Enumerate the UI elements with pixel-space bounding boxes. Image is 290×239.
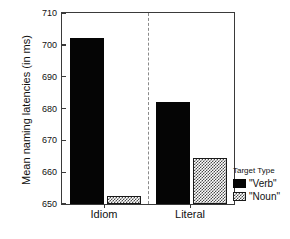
y-tick-label: 680 <box>28 103 62 115</box>
y-tick-label: 670 <box>28 134 62 146</box>
legend-entry: "Verb" <box>233 178 280 189</box>
y-tick-value: 700 <box>42 39 62 51</box>
y-tick-value: 710 <box>42 7 62 19</box>
y-tick-mark <box>62 76 66 77</box>
bar-idiom-series0 <box>70 38 104 204</box>
y-tick-mark <box>62 172 66 173</box>
y-tick-mark <box>62 203 66 204</box>
y-tick-value: 660 <box>42 166 62 178</box>
y-tick-label: 690 <box>28 71 62 83</box>
y-tick-value: 670 <box>42 134 62 146</box>
legend-title: Target Type <box>233 166 280 175</box>
bar-literal-series1 <box>193 158 227 204</box>
y-tick-value: 690 <box>42 71 62 83</box>
bar-chart-figure: Mean naming latencies (in ms) 6506606706… <box>0 0 290 239</box>
y-tick-value: 680 <box>42 103 62 115</box>
bar-idiom-series1 <box>107 196 141 204</box>
y-tick-label: 650 <box>28 198 62 210</box>
legend: Target Type "Verb""Noun" <box>233 166 280 204</box>
y-tick-label: 710 <box>28 7 62 19</box>
group-divider-line <box>148 13 149 204</box>
y-tick-label: 660 <box>28 166 62 178</box>
y-tick-mark <box>62 140 66 141</box>
y-tick-value: 650 <box>42 198 62 210</box>
y-tick-mark <box>62 44 66 45</box>
x-tick-label: Idiom <box>64 208 144 220</box>
legend-entries: "Verb""Noun" <box>233 178 280 202</box>
y-tick-mark <box>62 12 66 13</box>
y-tick-mark <box>62 108 66 109</box>
x-tick-label: Literal <box>150 208 230 220</box>
legend-swatch-noun <box>233 192 246 201</box>
bar-literal-series0 <box>156 102 190 204</box>
x-tick-mark <box>190 204 191 208</box>
legend-swatch-verb <box>233 179 246 188</box>
legend-entry: "Noun" <box>233 191 280 202</box>
y-tick-label: 700 <box>28 39 62 51</box>
legend-label: "Noun" <box>249 191 280 202</box>
plot-area: 650660670680690700710 <box>61 12 235 205</box>
x-tick-mark <box>104 204 105 208</box>
legend-label: "Verb" <box>249 178 277 189</box>
